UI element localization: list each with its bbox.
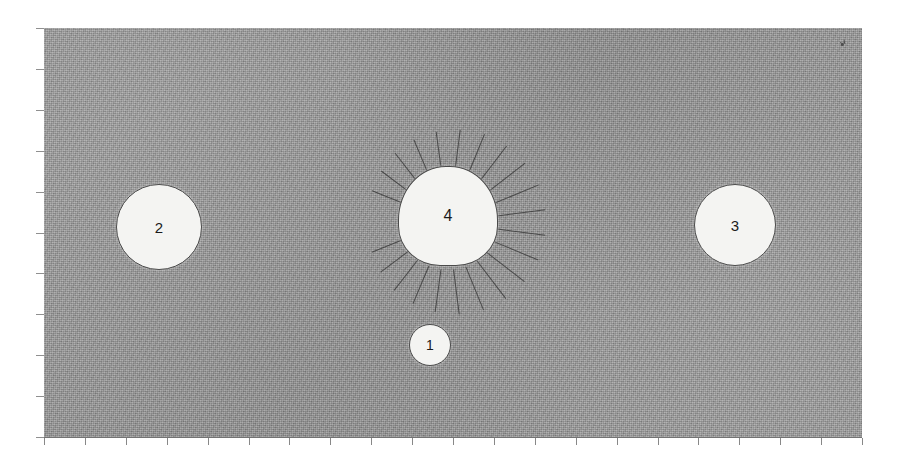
feature-blob-2[interactable]: 2 <box>116 184 202 270</box>
x-tick <box>85 438 86 445</box>
feature-blob-1[interactable]: 1 <box>409 324 451 366</box>
x-tick <box>167 438 168 445</box>
feature-label-4: 4 <box>444 208 453 224</box>
x-tick <box>453 438 454 445</box>
y-tick <box>36 233 44 234</box>
x-tick <box>126 438 127 445</box>
y-tick <box>36 192 44 193</box>
x-tick <box>208 438 209 445</box>
y-tick <box>36 273 44 274</box>
x-tick <box>249 438 250 445</box>
x-tick <box>780 438 781 445</box>
x-tick <box>535 438 536 445</box>
feature-blob-3[interactable]: 3 <box>694 184 776 266</box>
y-tick <box>36 314 44 315</box>
y-tick <box>36 110 44 111</box>
scan-artifact-icon <box>838 38 849 51</box>
x-tick <box>739 438 740 445</box>
feature-label-3: 3 <box>731 218 739 233</box>
y-tick <box>36 69 44 70</box>
y-tick <box>36 396 44 397</box>
y-tick <box>36 355 44 356</box>
x-tick <box>289 438 290 445</box>
feature-label-1: 1 <box>426 338 434 352</box>
x-tick <box>617 438 618 445</box>
y-tick <box>36 151 44 152</box>
y-tick <box>36 437 44 438</box>
feature-label-2: 2 <box>155 220 163 235</box>
x-tick <box>371 438 372 445</box>
x-tick <box>494 438 495 445</box>
figure-canvas: 1 2 3 4 <box>0 0 901 472</box>
x-tick <box>658 438 659 445</box>
x-tick <box>44 438 45 445</box>
x-tick <box>412 438 413 445</box>
feature-blob-4[interactable]: 4 <box>398 166 498 266</box>
x-tick <box>330 438 331 445</box>
x-tick <box>821 438 822 445</box>
x-tick <box>698 438 699 445</box>
x-tick <box>576 438 577 445</box>
x-tick <box>862 438 863 445</box>
y-tick <box>36 28 44 29</box>
